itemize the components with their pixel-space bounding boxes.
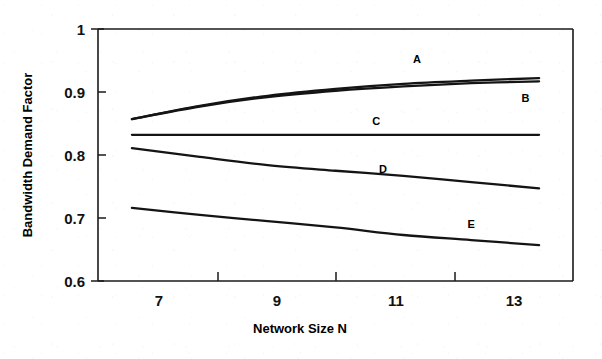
y-label-0-7: 0.7 [64, 210, 85, 227]
series-label-B: B [522, 92, 530, 104]
series-label-C: C [372, 115, 380, 127]
data-series-group [132, 78, 539, 245]
x-tick-marks [218, 272, 455, 281]
y-label-0-8: 0.8 [64, 147, 85, 164]
x-tick-labels: 7 9 11 13 [155, 292, 523, 309]
y-tick-labels: 1 0.9 0.8 0.7 0.6 [64, 21, 85, 290]
y-axis-title: Bandwidth Demand Factor [20, 73, 35, 238]
x-label-9: 9 [273, 292, 281, 309]
x-label-7: 7 [155, 292, 163, 309]
series-label-D: D [379, 163, 387, 175]
y-label-0-9: 0.9 [64, 84, 85, 101]
chart-figure: 1 0.9 0.8 0.7 0.6 7 9 11 13 Network Size… [0, 0, 602, 359]
series-curve-A [132, 78, 539, 119]
series-label-A: A [413, 53, 421, 65]
series-curve-B [132, 81, 539, 119]
x-label-11: 11 [388, 292, 404, 309]
line-chart: 1 0.9 0.8 0.7 0.6 7 9 11 13 Network Size… [0, 0, 602, 359]
y-label-0-6: 0.6 [64, 273, 85, 290]
series-curve-D [132, 148, 539, 188]
series-label-E: E [468, 218, 475, 230]
x-label-13: 13 [506, 292, 523, 309]
x-axis-title: Network Size N [253, 321, 347, 336]
y-label-1: 1 [77, 21, 85, 38]
series-curve-E [132, 208, 539, 245]
